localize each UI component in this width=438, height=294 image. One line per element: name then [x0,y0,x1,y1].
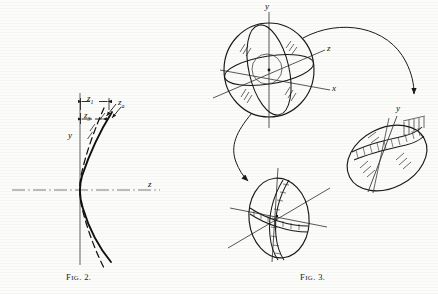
fig2-label-y-axis: y [68,131,72,140]
arrow-sphere-to-lower-ellipse [234,113,252,181]
lower-view-horizontal-band [250,208,308,232]
fig3-sphere-label-y: y [265,2,269,11]
fig3-sphere-label-x: x [332,84,336,93]
figures-canvas [0,0,438,294]
figure-2-caption: FIG. 2. [66,272,91,282]
lower-view-center-point [276,215,278,217]
fig3-sphere-label-z: z [327,44,331,53]
fig3-right-view-label-y: y [396,104,400,113]
figure-page: z1 z3 za y z y z x y FIG. 2. FIG. 3. [0,0,438,294]
figure-3-sphere [213,12,330,128]
figure-3-caption: FIG. 3. [300,272,325,282]
fig2-dimension-z1 [81,98,110,110]
figure-3-lower-view [228,168,330,262]
lower-view-x-axis [230,208,327,227]
arrow-sphere-to-right-disk [303,27,414,94]
sphere-inner-zone [252,54,282,84]
right-view-hatched-band [352,127,424,160]
lower-view-vertical-band [270,180,289,260]
figure-3-right-view [336,112,438,204]
right-view-secondary-axis [373,118,389,193]
sphere-center-point [268,69,271,72]
fig2-solid-curve [80,112,112,262]
fig2-label-z3: z3 [84,111,91,122]
fig2-label-z1: z1 [87,94,94,105]
fig2-label-za: za [118,98,125,109]
fig2-label-z-axis: z [148,180,152,189]
